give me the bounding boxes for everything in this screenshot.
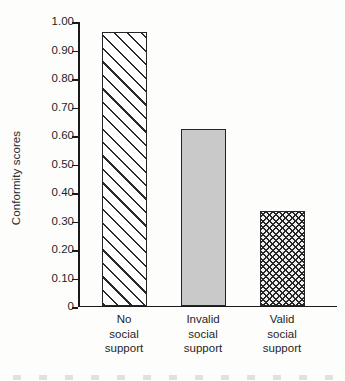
- x-axis-category-label-line: Invalid: [158, 312, 248, 327]
- y-axis-tick-label: 0.50: [30, 159, 74, 171]
- x-axis-category-label-line: social: [237, 327, 327, 342]
- x-axis-category-label-line: No: [79, 312, 169, 327]
- x-axis-category-label-line: support: [79, 341, 169, 356]
- x-axis-category-label-line: support: [158, 341, 248, 356]
- x-axis-baseline: [78, 306, 337, 308]
- chart-figure: Conformity scores 1.000.900.800.700.600.…: [0, 0, 345, 381]
- y-axis-tick-mark: [72, 22, 78, 24]
- x-axis-category-label-line: Valid: [237, 312, 327, 327]
- x-axis-category-label: Nosocialsupport: [79, 312, 169, 356]
- y-axis-tick-label: 1.00: [30, 16, 74, 28]
- bar: [260, 211, 305, 305]
- y-axis-tick-mark: [72, 108, 78, 110]
- y-axis-tick-mark: [72, 136, 78, 138]
- y-axis-tick-label: 0.20: [30, 244, 74, 256]
- y-axis-tick-label: 0: [30, 301, 74, 313]
- y-axis-tick-label: 0.40: [30, 187, 74, 199]
- y-axis-tick-mark: [72, 165, 78, 167]
- y-axis-title: Conformity scores: [10, 118, 26, 238]
- y-axis-tick-mark: [72, 307, 78, 309]
- y-axis-tick-mark: [72, 222, 78, 224]
- y-axis-tick-labels: 1.000.900.800.700.600.500.400.300.200.10…: [30, 0, 74, 381]
- y-axis-tick-label: 0.30: [30, 216, 74, 228]
- y-axis-tick-mark: [72, 51, 78, 53]
- x-axis-category-label: Validsocialsupport: [237, 312, 327, 356]
- x-axis-category-label-line: social: [158, 327, 248, 342]
- scan-artifact: [6, 375, 338, 380]
- y-axis-tick-mark: [72, 79, 78, 81]
- y-axis-tick-label: 0.70: [30, 102, 74, 114]
- y-axis-tick-label: 0.10: [30, 273, 74, 285]
- y-axis-tick-mark: [72, 193, 78, 195]
- y-axis-tick-mark: [72, 250, 78, 252]
- x-axis-category-label-line: support: [237, 341, 327, 356]
- y-axis-tick-mark: [72, 279, 78, 281]
- x-axis-category-label: Invalidsocialsupport: [158, 312, 248, 356]
- x-axis-category-label-line: social: [79, 327, 169, 342]
- y-axis-tick-label: 0.80: [30, 73, 74, 85]
- plot-area: [78, 22, 337, 307]
- y-axis-line: [78, 22, 80, 307]
- y-axis-tick-label: 0.60: [30, 130, 74, 142]
- y-axis-tick-label: 0.90: [30, 45, 74, 57]
- bar: [102, 32, 147, 306]
- bar: [181, 129, 226, 306]
